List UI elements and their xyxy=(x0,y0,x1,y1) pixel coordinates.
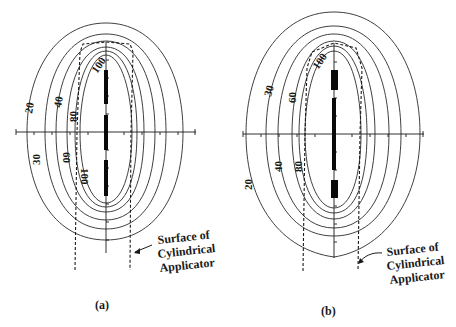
contour-label-30-a: 30 xyxy=(30,154,42,166)
annotation-arrowhead-a xyxy=(134,248,140,254)
panel-a: 20 40 80 100 30 60 100 Surface of Cylind… xyxy=(16,23,217,312)
contour-label-80-a: 80 xyxy=(67,111,79,123)
contour-label-20-b: 20 xyxy=(242,179,254,191)
panel-label-a: (a) xyxy=(95,298,109,312)
radiation-source-a xyxy=(104,70,108,196)
contour-label-60-b: 60 xyxy=(286,92,298,104)
contour-label-80-b: 80 xyxy=(292,161,304,173)
contour-label-60-a: 60 xyxy=(61,152,73,164)
contour-label-40-b: 40 xyxy=(272,161,284,173)
contour-label-40-a: 40 xyxy=(51,95,65,108)
contour-label-100-bottom-a: 100 xyxy=(79,168,91,185)
contour-label-20-a: 20 xyxy=(22,101,36,114)
panel-b: 30 60 100 20 40 80 Surface of Cylindrica… xyxy=(242,12,446,318)
contour-label-30-b: 30 xyxy=(261,83,276,97)
isodose-figure: 20 40 80 100 30 60 100 Surface of Cylind… xyxy=(0,0,456,327)
panel-label-b: (b) xyxy=(321,304,336,318)
